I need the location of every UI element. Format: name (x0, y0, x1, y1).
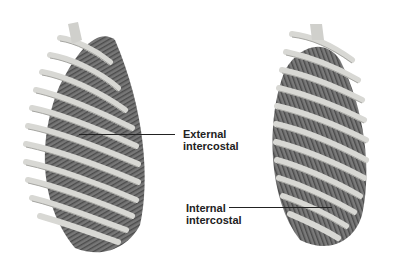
external-intercostal-label: External intercostal (183, 128, 239, 152)
left-rib-cage (26, 22, 145, 252)
internal-label-line1: Internal (186, 202, 242, 214)
internal-label-line2: intercostal (186, 214, 242, 226)
external-intercostal-leader-line (79, 134, 175, 135)
internal-intercostal-label: Internal intercostal (186, 202, 242, 226)
external-label-line1: External (183, 128, 239, 140)
external-label-line2: intercostal (183, 140, 239, 152)
internal-intercostal-leader-line (229, 207, 332, 208)
right-rib-cage (272, 24, 366, 246)
